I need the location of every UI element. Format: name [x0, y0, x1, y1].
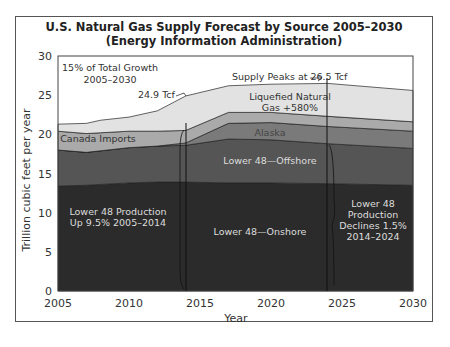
- x-tick-label: 2030: [399, 297, 427, 310]
- canada-label: Canada Imports: [60, 133, 136, 144]
- y-tick-label: 30: [38, 50, 52, 63]
- x-tick-label: 2020: [257, 297, 285, 310]
- decline-label-4: 2014–2024: [346, 231, 399, 242]
- chart-svg: 051015202530 200520102015202020252030 Tr…: [0, 0, 450, 347]
- up-label-1: Lower 48 Production: [69, 206, 166, 217]
- decline-label-1: Lower 48: [351, 198, 395, 209]
- offshore-label: Lower 48—Offshore: [223, 155, 317, 166]
- decline-label-3: Declines 1.5%: [339, 220, 407, 231]
- y-axis-ticks: 051015202530: [38, 50, 52, 298]
- y-tick-label: 15: [38, 168, 52, 181]
- y-tick-label: 20: [38, 128, 52, 141]
- x-axis-label: Year: [223, 312, 248, 325]
- growth-annotation-1: 15% of Total Growth: [62, 62, 158, 73]
- x-axis-ticks: 200520102015202020252030: [44, 297, 427, 310]
- up-label-2: Up 9.5% 2005–2014: [70, 217, 166, 228]
- lng-label-1: Liquefied Natural: [249, 91, 331, 102]
- arrow-icon: [176, 93, 186, 96]
- lng-label-2: Gas +580%: [262, 102, 318, 113]
- decline-label-2: Production: [348, 209, 399, 220]
- peak-label: Supply Peaks at 26.5 Tcf: [232, 71, 348, 82]
- y-tick-label: 5: [45, 246, 52, 259]
- onshore-label: Lower 48—Onshore: [214, 226, 307, 237]
- alaska-label: Alaska: [254, 127, 285, 138]
- y-tick-label: 10: [38, 207, 52, 220]
- y-tick-label: 25: [38, 89, 52, 102]
- growth-annotation-2: 2005–2030: [83, 74, 136, 85]
- x-tick-label: 2015: [186, 297, 214, 310]
- tcf-249-label: 24.9 Tcf: [138, 89, 176, 100]
- x-tick-label: 2005: [44, 297, 72, 310]
- x-tick-label: 2010: [115, 297, 143, 310]
- stacked-areas: [58, 83, 413, 291]
- x-tick-label: 2025: [328, 297, 356, 310]
- y-axis-label: Trillion cubic feet per year: [20, 108, 33, 253]
